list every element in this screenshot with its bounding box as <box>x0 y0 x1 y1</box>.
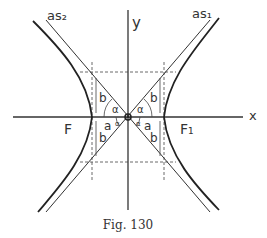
alpha-label-lr: α <box>136 120 141 128</box>
x-axis-label: x <box>249 108 257 123</box>
asymptote-label-as1: as₁ <box>192 6 212 21</box>
y-axis-label: y <box>132 14 141 32</box>
asymptote-label-as2: as₂ <box>47 8 67 23</box>
hyperbola-diagram: as₂ as₁ y x F F₁ b b b b α α α α a a Fig… <box>0 0 267 238</box>
hyperbola-right-branch <box>164 18 219 210</box>
a-label-right: a <box>144 119 151 133</box>
focus-label-right: F₁ <box>180 121 194 137</box>
alpha-label-right: α <box>137 104 144 115</box>
focus-label-left: F <box>64 121 72 137</box>
figure-caption: Fig. 130 <box>103 218 153 232</box>
a-label-left: a <box>104 119 111 133</box>
b-label-ul: b <box>99 91 107 105</box>
alpha-label-left: α <box>112 104 119 115</box>
b-label-lr: b <box>150 131 158 145</box>
b-label-ur: b <box>150 91 158 105</box>
b-label-ll: b <box>99 131 107 145</box>
alpha-label-ll: α <box>115 120 120 128</box>
